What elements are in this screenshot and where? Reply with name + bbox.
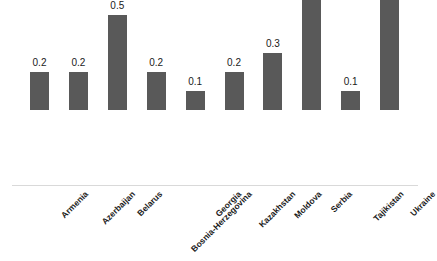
x-axis-category-label-text: Moldova: [292, 189, 323, 220]
x-axis-category-label: Ukraine: [408, 189, 437, 218]
bar[interactable]: [108, 15, 127, 111]
x-axis-category-label-text: Tajikistan: [371, 189, 405, 223]
bar-value-label: 0.5: [98, 0, 137, 12]
x-axis-category-label-text: Serbia: [328, 189, 353, 214]
bar[interactable]: [186, 91, 205, 110]
bar[interactable]: [69, 72, 88, 110]
bar-value-label: 0.2: [59, 57, 98, 69]
x-axis-category-label-text: Bosnia-Herzegovina: [189, 189, 254, 254]
bar-value-label: 0.2: [137, 57, 176, 69]
bar[interactable]: [225, 72, 244, 110]
x-axis-category-label: Kazakhstan: [257, 189, 297, 229]
bar[interactable]: [341, 91, 360, 110]
bar[interactable]: [380, 0, 399, 110]
bar-value-label: 0.1: [176, 76, 215, 88]
x-axis-category-label-text: Armenia: [58, 189, 89, 220]
x-axis-line: [12, 185, 418, 186]
x-axis-category-label-text: Azerbaijan: [100, 189, 137, 226]
x-axis-category-label-text: Belarus: [135, 189, 164, 218]
x-axis-category-label: Belarus: [135, 189, 164, 218]
plot-area: 0.20.20.50.20.10.20.30.80.10.6: [0, 0, 430, 186]
x-axis-category-label: Tajikistan: [371, 189, 405, 223]
x-axis-category-label: Moldova: [292, 189, 323, 220]
bar-value-label: 0.3: [253, 38, 292, 50]
x-axis-category-label-text: Ukraine: [408, 189, 437, 218]
bar-value-label: 0.2: [215, 57, 254, 69]
x-axis-category-label: Bosnia-Herzegovina: [189, 189, 254, 254]
x-axis-category-label: Serbia: [328, 189, 353, 214]
bar-value-label: 0.1: [331, 76, 370, 88]
x-axis-category-label-text: Kazakhstan: [257, 189, 297, 229]
bar-value-label: 0.2: [20, 57, 59, 69]
x-axis-category-label: Armenia: [58, 189, 89, 220]
x-axis-category-label: Azerbaijan: [100, 189, 137, 226]
bar[interactable]: [30, 72, 49, 110]
bar[interactable]: [302, 0, 321, 110]
bar[interactable]: [147, 72, 166, 110]
bar[interactable]: [263, 53, 282, 110]
